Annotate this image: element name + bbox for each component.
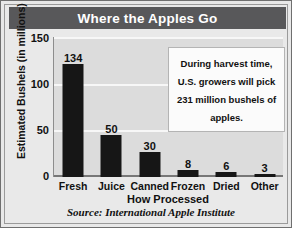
y-tick-label-100: 100 — [31, 78, 49, 90]
bar-slot: 50 Juice — [92, 37, 130, 177]
category-label-dried: Dried — [213, 180, 240, 192]
plot-area: 150 100 50 0 134 Fresh 50 Juice 30 Canne… — [53, 37, 283, 177]
y-tick-label-150: 150 — [31, 32, 49, 44]
bar-juice[interactable] — [101, 135, 122, 177]
bar-value-label: 134 — [64, 52, 82, 64]
category-label-fresh: Fresh — [59, 180, 88, 192]
category-label-juice: Juice — [98, 180, 125, 192]
chart-title-bar: Where the Apples Go — [9, 7, 286, 29]
category-label-other: Other — [251, 180, 279, 192]
callout-annotation-text: During harvest time, U.S. growers will p… — [177, 58, 276, 123]
source-note: Source: International Apple Institute — [21, 206, 281, 218]
page-title: Where the Apples Go — [78, 11, 218, 26]
chart-figure: Where the Apples Go Estimated Bushels (i… — [0, 0, 292, 228]
y-tick-label-50: 50 — [37, 124, 49, 136]
bar-slot: 134 Fresh — [54, 37, 92, 177]
category-label-canned: Canned — [130, 180, 169, 192]
bar-value-label: 50 — [105, 123, 117, 135]
bar-fresh[interactable] — [63, 64, 84, 177]
y-axis-title: Estimated Bushels (in millions) — [15, 9, 27, 159]
bar-value-label: 3 — [262, 162, 268, 174]
bar-slot: 30 Canned — [131, 37, 169, 177]
x-axis-title: How Processed — [53, 193, 283, 205]
bar-frozen[interactable] — [178, 170, 199, 177]
bar-value-label: 8 — [185, 158, 191, 170]
bar-value-label: 6 — [223, 160, 229, 172]
bar-dried[interactable] — [216, 172, 237, 177]
bar-other[interactable] — [254, 174, 275, 177]
y-tick-label-0: 0 — [43, 170, 49, 182]
bar-value-label: 30 — [144, 140, 156, 152]
category-label-frozen: Frozen — [171, 180, 205, 192]
plot-wrapper: 150 100 50 0 134 Fresh 50 Juice 30 Canne… — [53, 37, 283, 177]
bar-canned[interactable] — [139, 152, 160, 177]
callout-annotation-box: During harvest time, U.S. growers will p… — [168, 47, 285, 132]
